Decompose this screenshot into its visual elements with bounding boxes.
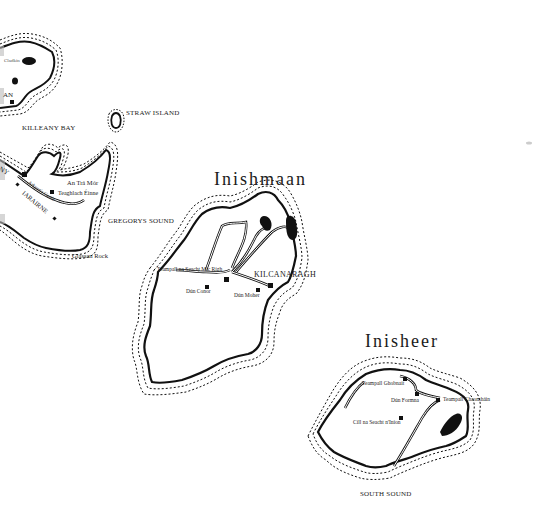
label-an-tra-mor: An Trá Mór bbox=[67, 180, 98, 187]
site-marker-icon bbox=[224, 277, 229, 282]
label-straw-island: STRAW ISLAND bbox=[126, 110, 180, 117]
label-dun-formna: Dún Formna bbox=[391, 398, 419, 404]
label-cladkin: Cladkin bbox=[4, 58, 20, 63]
inishmore-north-fragment bbox=[0, 33, 62, 116]
site-marker-icon bbox=[22, 172, 27, 177]
title-inishmaan: Inishmaan bbox=[214, 170, 307, 188]
label-teaghlach-einne: Teaghlach Éinne bbox=[58, 190, 98, 196]
label-killeany-bay: KILLEANY BAY bbox=[22, 125, 75, 132]
label-teampall-chaomhain: Teampall Chaomháin bbox=[443, 397, 490, 403]
straw-island bbox=[108, 110, 124, 133]
inishmore-southeast-fragment bbox=[0, 142, 118, 259]
site-marker-icon bbox=[436, 398, 440, 402]
site-marker-icon bbox=[10, 100, 14, 104]
label-dun-moher: Dún Moher bbox=[234, 293, 260, 299]
site-marker-icon bbox=[268, 283, 273, 288]
map-canvas bbox=[0, 0, 537, 524]
smudge bbox=[526, 142, 532, 145]
label-teampall-ghobnait: Teampall Ghobnait bbox=[362, 381, 404, 387]
label-dun-conor: Dún Conor bbox=[186, 289, 211, 295]
inishmaan-island bbox=[132, 180, 308, 395]
lake-icon bbox=[12, 78, 18, 85]
label-kilcanaragh: KILCANARAGH bbox=[254, 271, 316, 279]
label-south-sound: SOUTH SOUND bbox=[360, 491, 411, 498]
title-inisheer: Inisheer bbox=[365, 332, 439, 350]
label-gregorys-sound: GREGORYS SOUND bbox=[108, 218, 174, 225]
label-an-partial: AN bbox=[3, 92, 13, 99]
site-marker-icon bbox=[50, 190, 54, 194]
site-marker-icon bbox=[415, 392, 419, 396]
label-cill-na-seacht-ninion: Cill na Seacht n'Iníon bbox=[353, 420, 401, 426]
label-teampall-na-seacht-mic-righ: Teampall na Seacht Mic Rígh bbox=[157, 267, 222, 273]
lake-icon bbox=[440, 414, 462, 436]
lake-icon bbox=[286, 216, 297, 240]
lake-icon bbox=[22, 57, 36, 65]
label-glassan-rock: Glassan Rock bbox=[72, 253, 108, 260]
